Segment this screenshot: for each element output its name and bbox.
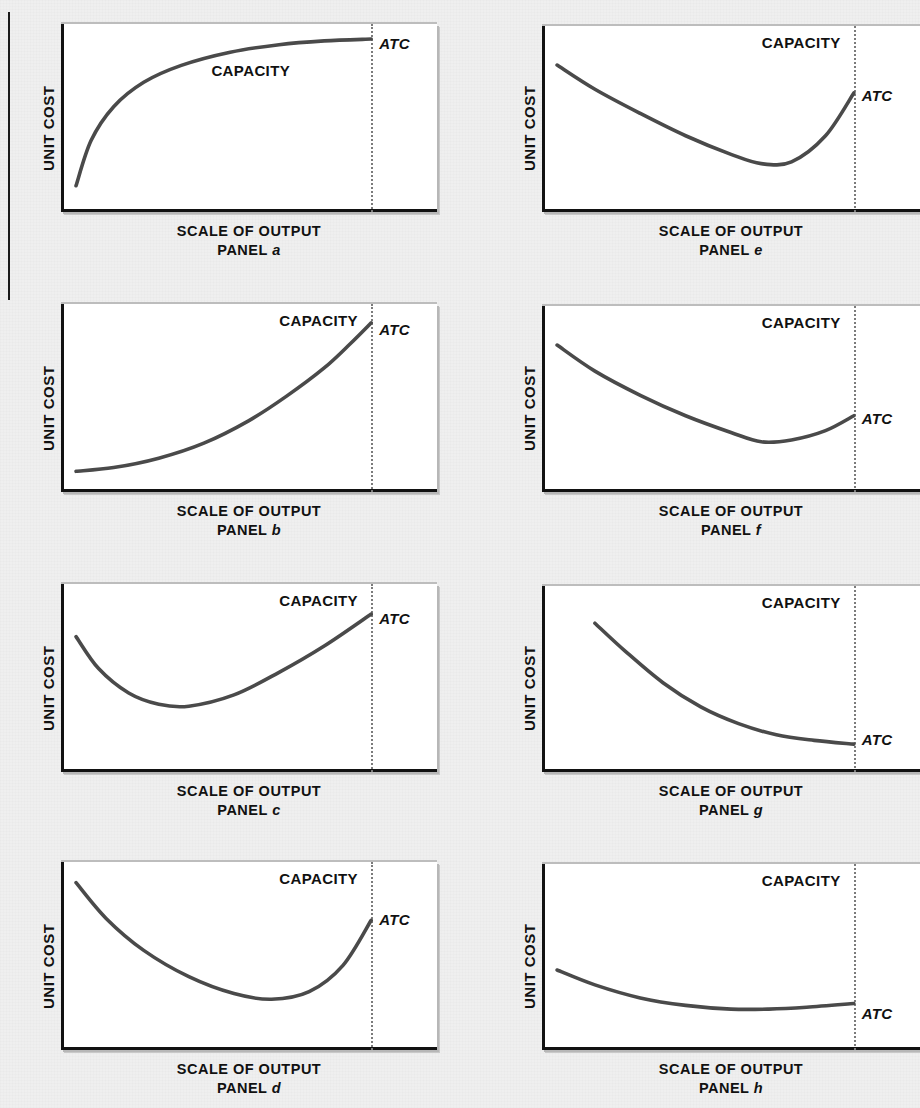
atc-curve-e <box>542 26 920 212</box>
x-axis-caption-c: SCALE OF OUTPUTPANEL c <box>61 782 437 819</box>
capacity-label: CAPACITY <box>279 870 358 887</box>
x-axis-caption-f: SCALE OF OUTPUTPANEL f <box>542 502 920 539</box>
y-axis-label: UNIT COST <box>521 646 538 731</box>
atc-label: ATC <box>862 731 893 748</box>
y-axis-label: UNIT COST <box>40 645 57 730</box>
plot-area-d: CAPACITYATC <box>61 862 437 1050</box>
panel-letter: e <box>754 242 763 258</box>
atc-label: ATC <box>379 610 410 627</box>
panel-word: PANEL <box>217 242 272 258</box>
panel-word: PANEL <box>699 802 754 818</box>
y-axis-label: UNIT COST <box>521 924 538 1009</box>
atc-label: ATC <box>379 35 410 52</box>
panel-word: PANEL <box>217 522 272 538</box>
panel-caption: PANEL f <box>542 521 920 540</box>
panel-letter: a <box>272 242 281 258</box>
x-axis-label: SCALE OF OUTPUT <box>542 1060 920 1079</box>
x-axis-label: SCALE OF OUTPUT <box>542 782 920 801</box>
plot-area-g: CAPACITYATC <box>542 586 920 772</box>
panel-word: PANEL <box>217 1080 272 1096</box>
atc-label: ATC <box>862 410 893 427</box>
panel-caption: PANEL e <box>542 241 920 260</box>
y-axis-label: UNIT COST <box>521 366 538 451</box>
panel-word: PANEL <box>217 802 272 818</box>
x-axis-label: SCALE OF OUTPUT <box>61 222 437 241</box>
panel-caption: PANEL g <box>542 801 920 820</box>
panel-word: PANEL <box>699 1080 754 1096</box>
y-axis-label: UNIT COST <box>40 365 57 450</box>
capacity-label: CAPACITY <box>279 592 358 609</box>
panel-letter: h <box>754 1080 763 1096</box>
y-axis-label: UNIT COST <box>40 923 57 1008</box>
atc-label: ATC <box>379 321 410 338</box>
atc-label: ATC <box>862 1005 893 1022</box>
x-axis-caption-e: SCALE OF OUTPUTPANEL e <box>542 222 920 259</box>
panel-letter: g <box>754 802 763 818</box>
x-axis-caption-d: SCALE OF OUTPUTPANEL d <box>61 1060 437 1097</box>
panel-letter: c <box>272 802 281 818</box>
x-axis-label: SCALE OF OUTPUT <box>542 222 920 241</box>
atc-label: ATC <box>862 87 893 104</box>
panel-caption: PANEL h <box>542 1079 920 1098</box>
atc-curve-f <box>542 306 920 492</box>
plot-area-c: CAPACITYATC <box>61 584 437 772</box>
capacity-label: CAPACITY <box>279 312 358 329</box>
plot-area-e: CAPACITYATC <box>542 26 920 212</box>
capacity-label: CAPACITY <box>762 34 841 51</box>
x-axis-label: SCALE OF OUTPUT <box>61 502 437 521</box>
panel-caption: PANEL c <box>61 801 437 820</box>
y-axis-label: UNIT COST <box>40 85 57 170</box>
atc-curve-d <box>61 862 437 1050</box>
capacity-label: CAPACITY <box>762 314 841 331</box>
x-axis-label: SCALE OF OUTPUT <box>542 502 920 521</box>
capacity-label: CAPACITY <box>762 594 841 611</box>
panel-caption: PANEL d <box>61 1079 437 1098</box>
panel-letter: b <box>272 522 281 538</box>
y-axis-label: UNIT COST <box>521 86 538 171</box>
panel-caption: PANEL b <box>61 521 437 540</box>
x-axis-label: SCALE OF OUTPUT <box>61 1060 437 1079</box>
panel-grid: UNIT COSTCAPACITYATCSCALE OF OUTPUTPANEL… <box>0 0 920 1108</box>
panel-word: PANEL <box>701 522 756 538</box>
capacity-label: CAPACITY <box>762 872 841 889</box>
capacity-label: CAPACITY <box>211 62 290 79</box>
plot-area-h: CAPACITYATC <box>542 864 920 1050</box>
plot-area-b: CAPACITYATC <box>61 304 437 492</box>
x-axis-caption-g: SCALE OF OUTPUTPANEL g <box>542 782 920 819</box>
plot-area-a: CAPACITYATC <box>61 24 437 212</box>
panel-word: PANEL <box>699 242 754 258</box>
x-axis-caption-h: SCALE OF OUTPUTPANEL h <box>542 1060 920 1097</box>
x-axis-caption-a: SCALE OF OUTPUTPANEL a <box>61 222 437 259</box>
panel-caption: PANEL a <box>61 241 437 260</box>
plot-area-f: CAPACITYATC <box>542 306 920 492</box>
panel-letter: f <box>756 522 761 538</box>
panel-letter: d <box>272 1080 281 1096</box>
x-axis-label: SCALE OF OUTPUT <box>61 782 437 801</box>
x-axis-caption-b: SCALE OF OUTPUTPANEL b <box>61 502 437 539</box>
atc-label: ATC <box>379 911 410 928</box>
